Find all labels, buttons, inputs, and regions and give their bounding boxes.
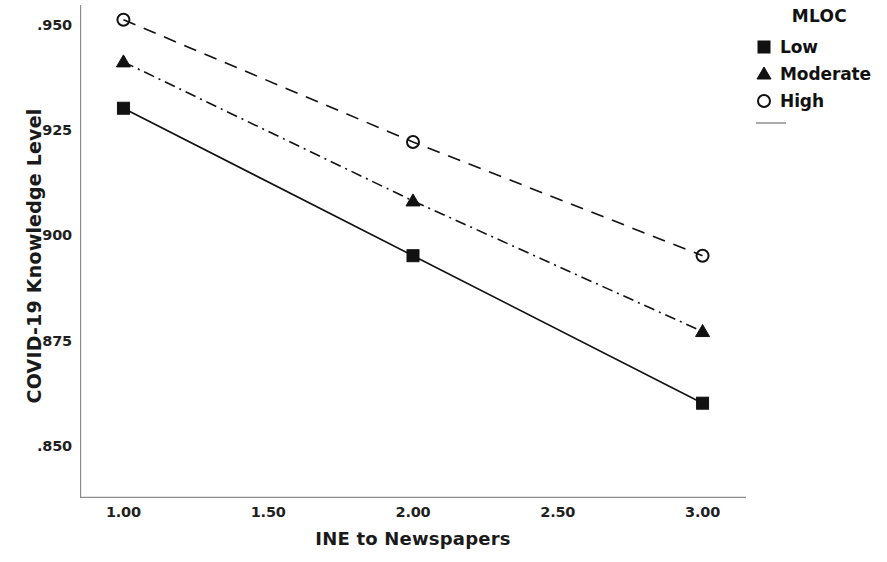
legend: MLOC LowModerateHigh <box>746 6 887 124</box>
x-axis-tick-label: 1.50 <box>228 504 308 520</box>
data-point-marker <box>758 41 770 53</box>
x-axis-tick-label: 2.50 <box>518 504 598 520</box>
data-point-marker <box>697 397 709 409</box>
chart-canvas <box>80 5 746 498</box>
data-point-marker <box>407 250 419 262</box>
x-axis-tick-label: 2.00 <box>373 504 453 520</box>
legend-line-sample-icon <box>756 122 786 124</box>
y-axis-tick-label: .875 <box>14 333 72 349</box>
data-point-marker <box>758 95 770 107</box>
data-point-marker <box>757 67 771 79</box>
legend-title: MLOC <box>746 6 887 26</box>
y-axis-tick-labels: .950.925.900.875.850 <box>8 5 72 498</box>
legend-item-low[interactable]: Low <box>746 33 887 60</box>
open-circle-icon <box>752 90 776 112</box>
filled-square-icon <box>752 36 776 58</box>
legend-item-label: Low <box>780 37 818 57</box>
legend-item-label: Moderate <box>780 64 871 84</box>
data-point-marker <box>406 194 420 206</box>
legend-item-label: High <box>780 91 824 111</box>
x-axis-tick-label: 1.00 <box>83 504 163 520</box>
filled-triangle-icon <box>752 63 776 85</box>
y-axis-tick-label: .950 <box>14 17 72 33</box>
series-moderate <box>116 55 709 337</box>
data-point-marker <box>117 102 129 114</box>
data-point-marker <box>696 325 710 337</box>
chart-figure: COVID-19 Knowledge Level .950.925.900.87… <box>0 0 887 562</box>
data-point-marker <box>116 55 130 67</box>
legend-items: LowModerateHigh <box>746 33 887 114</box>
plot-area <box>80 5 746 498</box>
x-axis-title: INE to Newspapers <box>80 528 746 549</box>
legend-item-high[interactable]: High <box>746 87 887 114</box>
y-axis-tick-label: .850 <box>14 438 72 454</box>
y-axis-tick-label: .900 <box>14 227 72 243</box>
legend-item-moderate[interactable]: Moderate <box>746 60 887 87</box>
series-high <box>117 14 708 262</box>
y-axis-tick-label: .925 <box>14 122 72 138</box>
series-line <box>123 20 702 256</box>
x-axis-tick-labels: 1.001.502.002.503.00 <box>80 504 746 526</box>
x-axis-tick-label: 3.00 <box>663 504 743 520</box>
